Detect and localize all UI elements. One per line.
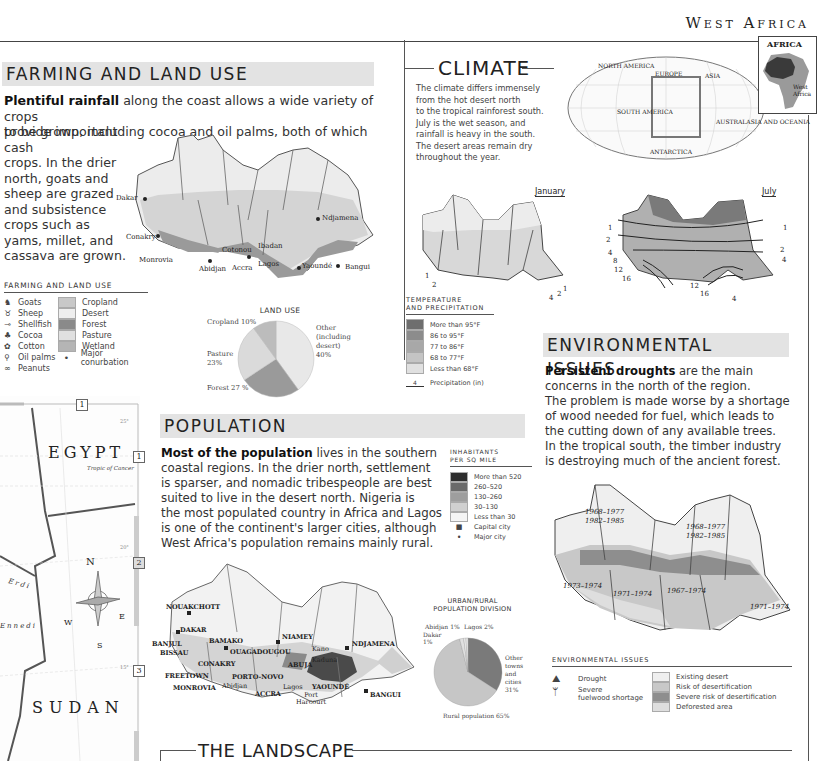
landscape-heading: THE LANDSCAPE [198,740,355,761]
major-city-icon: • [450,533,468,542]
farming-line: yams, millet, and [4,233,134,249]
drought-period-label: 1971–1974 [750,603,789,611]
city-label: YAOUNDÉ [312,683,349,691]
legend-label: 86 to 95°F [430,332,464,340]
legend-label: 130–260 [474,493,502,501]
grid-ref-box: 2 [133,557,145,569]
climate-line: throughout the year. [416,152,546,164]
globe-label: ANTARCTICA [650,148,692,155]
temp-swatch [406,319,424,330]
conurbation-dot [247,255,251,259]
city-label: Accra [232,264,252,272]
population-line: the most populated country in Africa and… [161,506,461,521]
legend-label: 77 to 86°F [430,343,464,351]
pie-label-dakar: Dakar 1% [423,631,443,645]
goat-icon: ♞ [4,298,18,307]
climate-line: from the hot desert north [416,95,546,107]
country-label-egypt: EGYPT [48,443,124,462]
city-label: Bangui [345,263,370,271]
legend-label: Existing desert [676,673,728,681]
city-label: Yaoundé [302,262,332,270]
farming-legend: FARMING AND LAND USE ♞Goats ♉Sheep ⊸Shel… [4,281,148,374]
city-label: NOUAKCHOTT [166,603,220,611]
compass-east: E [119,612,125,621]
legend-label: Drought [578,675,606,683]
isohyet-label: 4 [549,294,553,302]
temp-swatch [406,341,424,352]
climate-map-july [613,190,778,290]
environment-text: Persistent droughts are the main concern… [545,364,810,469]
city-label: Abidjan [199,265,226,273]
pasture-swatch [58,330,76,341]
header-rule [0,41,817,42]
city-label: Dakar [116,194,138,202]
landscape-frame-top-right [352,750,792,751]
pie-label-abidjan: Abidjan 1% [425,622,460,631]
legend-label: Shellfish [18,320,52,329]
isohyet-label: 12 [614,266,623,274]
isohyet-label: 2 [432,281,436,289]
conurbation-dot [336,264,340,268]
cocoa-icon: ♣ [4,331,18,340]
legend-label: Risk of desertification [676,683,752,691]
drought-period: 1968–1977 [585,508,624,516]
drought-period-label: 1968–19771982–1985 [585,508,624,526]
climate-legend-title: TEMPERATURE AND PRECIPITATION [406,296,494,315]
city-label: BANJUL [152,640,182,648]
sheep-icon: ♉ [4,309,18,318]
capital-city-icon: ■ [450,523,468,531]
isohyet-label: 16 [700,290,709,298]
africa-inset-map: AFRICA West Africa [758,36,817,114]
farming-legend-title: FARMING AND LAND USE [4,281,148,293]
population-line: coastal regions. In the drier north, set… [161,461,461,476]
pie-label-other-towns: Other towns and cities 31% [505,654,527,694]
legend-label: Forest [82,320,107,329]
capital-marker [276,640,280,644]
climate-line: The climate differs immensely [416,83,546,95]
environment-line: of wood needed for fuel, which leads to [545,409,810,424]
legend-label: Sheep [18,309,43,318]
globe-label: NORTH AMERICA [598,63,654,69]
isohyet-label: 1 [783,224,787,232]
pie-label-rural: Rural population 65% [443,711,509,720]
legend-label: Goats [18,298,41,307]
legend-label: Precipitation (in) [430,379,484,387]
landscape-frame-top [160,750,196,751]
city-label: BISSAU [160,649,189,657]
legend-label: Major conurbation [81,349,148,367]
drought-period-label: 1973–1974 [563,582,602,590]
farming-line: cassava are grown. [4,248,134,264]
legend-title-line: TEMPERATURE [406,296,494,304]
city-label: NDJAMENA [352,640,395,648]
legend-label: Less than 68°F [430,365,478,373]
conurbation-dot [156,234,160,238]
globe-label: EUROPE [655,70,682,77]
city-label: BANGUI [370,691,401,699]
capital-marker [224,646,228,650]
cropland-swatch [58,297,76,308]
legend-label: Severe risk of desertification [676,693,776,701]
urban-rural-pie [432,636,504,708]
conurbation-dot [316,217,320,221]
drought-icon: ⛰ [552,673,572,685]
peanut-icon: ∞ [4,364,18,373]
shellfish-icon: ⊸ [4,320,18,329]
drought-period: 1968–1977 [686,523,725,531]
climate-line: to the tropical rainforest south. [416,106,546,118]
density-swatch [450,482,468,492]
farming-text-column: provide important cash crops. In the dri… [4,124,134,264]
climate-line: rainfall is heavy in the south. [416,129,546,141]
pie-label-other: Other (including desert) 40% [316,324,356,360]
environment-legend: ENVIRONMENTAL ISSUES ⛰Drought ᛘSeverefue… [552,656,792,712]
city-label: Abidjan [222,682,247,690]
isohyet-label: 2 [557,290,561,298]
pie-label-pasture: Pasture 23% [207,350,237,368]
grid-ref-box: 1 [133,451,145,463]
latitude-label: 15° [120,664,129,670]
climate-heading: CLIMATE [438,56,530,80]
climate-frame-left [404,40,405,360]
city-label: MONROVIA [173,684,216,692]
farming-line: provide important cash [4,124,134,155]
conurbation-dot [143,197,147,201]
city-label: NIAMEY [282,633,313,641]
